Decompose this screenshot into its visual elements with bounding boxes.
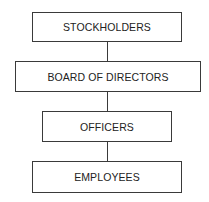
node-label: EMPLOYEES	[74, 171, 140, 183]
connector-officers-employees	[107, 142, 108, 161]
connector-board-officers	[107, 92, 108, 111]
node-board-of-directors: BOARD OF DIRECTORS	[15, 61, 201, 92]
node-stockholders: STOCKHOLDERS	[32, 12, 182, 42]
connector-stockholders-board	[107, 42, 108, 61]
node-officers: OFFICERS	[42, 111, 172, 142]
node-employees: EMPLOYEES	[32, 161, 182, 193]
node-label: OFFICERS	[80, 121, 134, 133]
node-label: BOARD OF DIRECTORS	[47, 71, 168, 83]
node-label: STOCKHOLDERS	[63, 21, 151, 33]
